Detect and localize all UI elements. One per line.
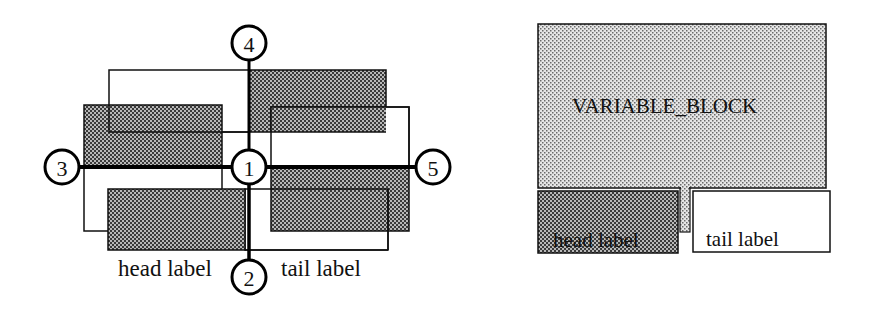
- svg-text:4: 4: [244, 32, 255, 57]
- bottom-shaded-box: [108, 189, 245, 250]
- node-4: 4: [232, 26, 266, 60]
- node-3: 3: [45, 150, 79, 184]
- svg-text:3: 3: [57, 156, 68, 181]
- right-head-label: head label: [553, 228, 639, 252]
- left-outline-box: [84, 167, 108, 231]
- node-1: 1: [232, 150, 266, 184]
- left-tail-label: tail label: [281, 256, 361, 281]
- left-shaded-box: [84, 105, 222, 167]
- variable-block-label: VARIABLE_BLOCK: [572, 94, 757, 118]
- node-5: 5: [416, 150, 450, 184]
- svg-text:5: 5: [428, 156, 439, 181]
- right-diagram: VARIABLE_BLOCK head label tail label: [538, 24, 830, 253]
- svg-text:2: 2: [244, 266, 255, 291]
- block-stem: [680, 188, 690, 232]
- svg-text:1: 1: [244, 156, 255, 181]
- diagram-canvas: 1 2 3 4 5 head label tail label VARIABLE…: [0, 0, 871, 313]
- node-2: 2: [232, 260, 266, 294]
- right-tail-label: tail label: [706, 227, 779, 251]
- left-diagram: 1 2 3 4 5 head label tail label: [45, 26, 450, 294]
- left-head-label: head label: [118, 256, 212, 281]
